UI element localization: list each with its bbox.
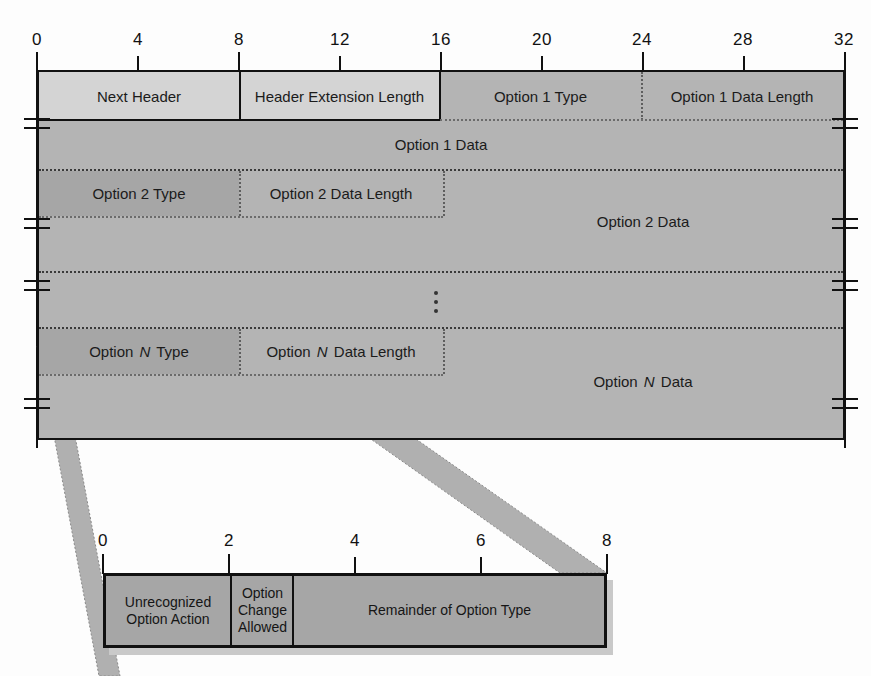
ruler-tick-label: 28 (723, 30, 763, 50)
ruler-tick (440, 52, 442, 71)
field-label: Option N Data Length (266, 343, 415, 360)
detail-tick (228, 554, 230, 574)
detail-separator (292, 576, 294, 645)
detail-tick-label: 4 (335, 531, 375, 551)
field-optionN-data-length: Option N Data Length (239, 329, 443, 374)
field-label: Option 1 Type (494, 88, 587, 105)
break-symbol-icon (832, 280, 858, 294)
break-symbol-icon (24, 218, 50, 232)
row5-dotted-separator (239, 329, 241, 374)
ruler-tick (339, 56, 341, 71)
row5-dotted-separator (443, 329, 445, 374)
field-label: Option 2 Data (597, 213, 690, 230)
detail-tick-label: 2 (209, 531, 249, 551)
field-label: Option 1 Data Length (671, 88, 814, 105)
optionN-header-bottom (39, 374, 443, 376)
break-symbol-icon (24, 398, 50, 412)
field-label: Option 2 Data Length (270, 185, 413, 202)
field-label: Option N Type (89, 343, 189, 360)
field-option1-type: Option 1 Type (440, 72, 641, 120)
field-header-extension-length: Header Extension Length (239, 72, 440, 120)
row3-dotted-separator (443, 171, 445, 216)
field-label-line: Option (242, 585, 283, 602)
row-divider (39, 271, 843, 273)
ruler-tick (137, 56, 139, 71)
row1-separator (239, 72, 241, 120)
detail-tick (102, 554, 104, 574)
detail-tick (606, 554, 608, 574)
break-symbol-icon (832, 218, 858, 232)
field-label-line: Remainder of Option Type (368, 602, 531, 619)
ruler-tick (642, 52, 644, 71)
field-option2-type: Option 2 Type (39, 171, 239, 216)
field-label: Header Extension Length (255, 88, 424, 105)
field-label-line: Unrecognized (125, 594, 211, 611)
field-label: Option 1 Data (395, 136, 488, 153)
vertical-ellipsis-icon (429, 286, 443, 318)
detail-tick-label: 6 (461, 531, 501, 551)
ruler-tick-label: 16 (421, 30, 461, 50)
break-symbol-icon (24, 280, 50, 294)
ruler-tick (238, 52, 240, 71)
ruler-tick-label: 32 (824, 30, 864, 50)
field-label: Option 2 Type (92, 185, 185, 202)
field-label: Option N Data (593, 373, 692, 390)
field-option2-data: Option 2 Data (443, 171, 843, 271)
row1-separator (439, 72, 441, 120)
field-option1-data: Option 1 Data (39, 120, 843, 169)
detail-tick-label: 0 (83, 531, 123, 551)
ruler-tick (541, 56, 543, 71)
field-label: Next Header (97, 88, 181, 105)
option2-header-bottom (39, 216, 443, 218)
ruler-tick-label: 24 (622, 30, 662, 50)
field-option-change-allowed: Option Change Allowed (232, 576, 293, 645)
ruler-tick-label: 12 (320, 30, 360, 50)
field-optionN-data: Option N Data (443, 329, 843, 434)
break-symbol-icon (832, 118, 858, 132)
detail-tick (354, 557, 356, 574)
field-label-line: Allowed (238, 619, 287, 636)
ruler-tick-label: 4 (118, 30, 158, 50)
detail-separator (230, 576, 232, 645)
field-label-line: Change (238, 602, 287, 619)
diagram-canvas: 0 4 8 12 16 20 24 28 32 Next Header Hea (0, 0, 871, 676)
row3-dotted-separator (239, 171, 241, 216)
field-option2-data-length: Option 2 Data Length (239, 171, 443, 216)
detail-tick (480, 557, 482, 574)
field-label-line: Option Action (126, 611, 209, 628)
field-next-header: Next Header (39, 72, 239, 120)
field-unrecognized-option-action: Unrecognized Option Action (106, 576, 230, 645)
break-symbol-icon (24, 118, 50, 132)
field-option1-data-length: Option 1 Data Length (641, 72, 843, 120)
field-optionN-type: Option N Type (39, 329, 239, 374)
ruler-tick-label: 8 (219, 30, 259, 50)
option-type-detail-box: Unrecognized Option Action Option Change… (103, 573, 607, 648)
ruler-tick-label: 20 (522, 30, 562, 50)
detail-tick-label: 8 (587, 531, 627, 551)
field-remainder-of-option-type: Remainder of Option Type (295, 576, 604, 645)
break-symbol-icon (832, 398, 858, 412)
ruler-tick-label: 0 (17, 30, 57, 50)
row1-dotted-separator (641, 72, 643, 120)
extension-header-table: Next Header Header Extension Length Opti… (37, 70, 845, 440)
ruler-tick (743, 56, 745, 71)
